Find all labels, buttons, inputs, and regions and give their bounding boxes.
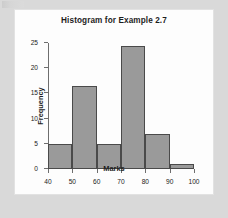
- x-tick-label-40: 40: [44, 178, 51, 185]
- plot-area: 0510152025 405060708090100 Frequency: [48, 43, 194, 169]
- y-axis-label: Frequency: [36, 87, 45, 124]
- scan-artifact: [2, 1, 24, 8]
- chart-title: Histogram for Example 2.7: [15, 16, 213, 25]
- x-tick-label-80: 80: [142, 178, 149, 185]
- y-tick-label-20: 20: [31, 64, 38, 71]
- y-tick-20: 20: [44, 67, 48, 68]
- x-tick-label-60: 60: [93, 178, 100, 185]
- x-tick-label-50: 50: [69, 178, 76, 185]
- x-tick-label-90: 90: [166, 178, 173, 185]
- y-tick-label-25: 25: [31, 39, 38, 46]
- bar-70-80: [121, 46, 145, 169]
- y-tick-label-5: 5: [34, 139, 38, 146]
- x-tick-label-70: 70: [117, 178, 124, 185]
- chart-panel: Histogram for Example 2.7 0510152025 405…: [14, 9, 214, 195]
- y-tick-25: 25: [44, 42, 48, 43]
- bar-50-60: [72, 86, 96, 169]
- x-axis-label: Marks: [15, 164, 213, 173]
- x-tick-label-100: 100: [188, 178, 199, 185]
